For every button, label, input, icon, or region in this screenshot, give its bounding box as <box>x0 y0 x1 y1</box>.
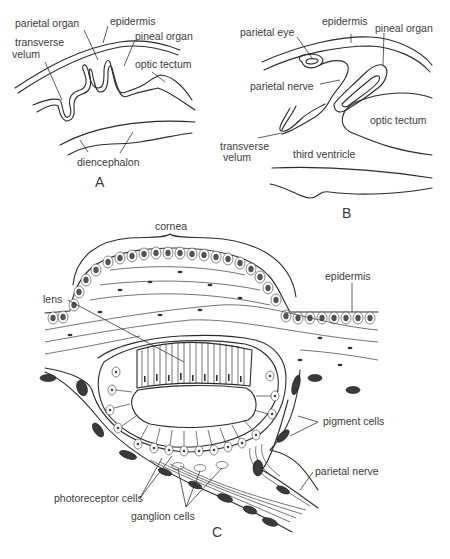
nucleus <box>178 250 183 256</box>
leader-b-pineal <box>383 33 384 65</box>
label-b-velum: velum <box>223 151 251 163</box>
pigment-cell <box>253 460 263 476</box>
nucleus <box>98 311 103 313</box>
leader-c-photoreceptor-2 <box>140 456 172 498</box>
panel-b: parietal eye epidermis pineal organ pari… <box>220 15 433 221</box>
leader-c-lens <box>68 300 184 362</box>
nucleus <box>153 447 156 450</box>
pigment-cell <box>308 375 322 382</box>
nucleus <box>226 256 231 262</box>
nucleus <box>213 449 216 452</box>
label-b-third-ventricle: third ventricle <box>293 148 356 160</box>
ganglion-cell <box>216 462 228 469</box>
panel-c: cornea epidermis lens pigment cells pari… <box>40 220 384 540</box>
nucleus <box>274 297 279 303</box>
leader-a-tectum <box>152 72 165 82</box>
label-c-epidermis: epidermis <box>325 270 371 282</box>
nucleus <box>227 446 230 449</box>
nucleus <box>348 347 353 349</box>
nucleus <box>238 260 243 266</box>
leader-c-photoreceptor-1 <box>140 458 162 498</box>
nucleus <box>148 281 153 283</box>
label-a-pineal-organ: pineal organ <box>135 30 193 42</box>
leader-b-velum <box>258 133 282 138</box>
panel-b-floor-lower <box>270 184 432 198</box>
panel-letter-c: C <box>212 524 222 540</box>
nucleus <box>274 395 277 398</box>
label-b-parietal-nerve: parietal nerve <box>250 80 314 92</box>
label-a-velum: velum <box>12 48 40 60</box>
nucleus <box>368 315 373 321</box>
nucleus <box>51 315 56 321</box>
nucleus <box>109 409 112 412</box>
pigment-cell <box>290 374 302 395</box>
panel-b-parietal-nerve <box>282 61 348 134</box>
nucleus <box>156 374 158 381</box>
nucleus <box>130 253 135 259</box>
panel-letter-b: B <box>342 205 351 221</box>
nucleus <box>61 314 66 320</box>
nucleus <box>202 252 207 258</box>
nucleus <box>241 442 244 445</box>
photoreceptor-stalks <box>114 390 272 447</box>
panel-a: parietal organ epidermis pineal organ tr… <box>12 15 195 190</box>
label-b-parietal-eye: parietal eye <box>240 26 294 38</box>
panel-letter-a: A <box>95 174 105 190</box>
nucleus <box>168 449 171 452</box>
leader-c-pigment-2 <box>290 422 318 436</box>
pigment-cell <box>40 375 56 382</box>
nucleus <box>269 375 272 378</box>
nucleus <box>84 277 89 283</box>
label-c-ganglion-cells: ganglion cells <box>131 510 195 522</box>
nucleus <box>68 334 73 336</box>
leader-c-pigment-1 <box>298 416 318 422</box>
nucleus <box>356 315 361 321</box>
pigment-cell <box>275 484 290 495</box>
leader-c-parietal-nerve <box>300 472 313 490</box>
label-a-epidermis: epidermis <box>110 15 156 27</box>
nucleus <box>266 285 271 291</box>
pigment-cell <box>346 387 360 394</box>
nucleus <box>296 315 301 321</box>
nucleus <box>158 314 163 316</box>
nucleus <box>117 427 120 430</box>
pigment-cell <box>187 480 202 490</box>
nucleus <box>298 359 303 361</box>
nucleus <box>144 376 146 382</box>
nucleus <box>178 271 183 273</box>
nucleus <box>332 315 337 321</box>
label-b-optic-tectum: optic tectum <box>370 114 427 126</box>
label-c-parietal-nerve: parietal nerve <box>315 465 379 477</box>
leader-a-dien-1 <box>80 140 88 152</box>
nucleus <box>142 251 147 257</box>
nucleus <box>115 371 118 374</box>
nucleus <box>258 274 263 280</box>
nucleus <box>255 434 258 437</box>
leader-a-dien-2 <box>120 132 133 153</box>
nucleus <box>228 374 230 381</box>
panel-b-epidermis-inner <box>264 46 430 72</box>
panel-b-parietal-eye-inner <box>306 59 318 64</box>
nucleus <box>106 259 111 265</box>
label-b-pineal-organ: pineal organ <box>375 22 433 34</box>
leader-a-epidermis <box>103 26 108 43</box>
nucleus <box>198 309 203 311</box>
nucleus <box>338 364 343 366</box>
panel-b-stalk-left <box>280 104 325 131</box>
label-a-optic-tectum: optic tectum <box>135 58 192 70</box>
panel-a-brain-roof-inner <box>37 66 195 121</box>
nucleus <box>216 375 218 381</box>
nucleus <box>180 373 182 380</box>
nucleus <box>154 250 159 256</box>
nucleus <box>168 375 170 381</box>
nucleus <box>190 251 195 257</box>
label-b-epidermis: epidermis <box>322 15 368 27</box>
eye-lumen <box>132 386 256 428</box>
label-c-cornea: cornea <box>155 220 187 232</box>
label-a-transverse: transverse <box>15 36 64 48</box>
nucleus <box>137 443 140 446</box>
label-c-photoreceptor-cells: photoreceptor cells <box>54 492 143 504</box>
nucleus <box>183 450 186 453</box>
pigment-cell <box>118 449 137 462</box>
nucleus <box>198 450 201 453</box>
